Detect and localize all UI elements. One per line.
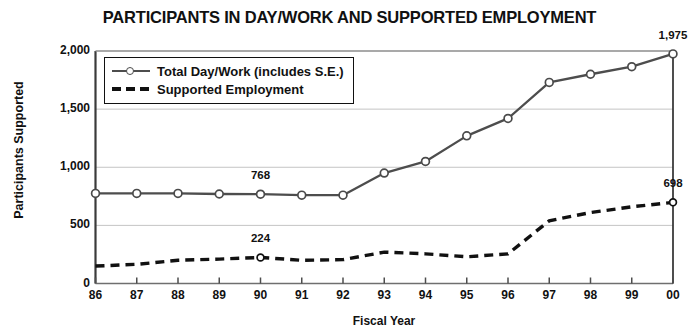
- legend-item-total-day-work: Total Day/Work (includes S.E.): [112, 62, 344, 80]
- x-axis-tick-label: 00: [666, 288, 679, 302]
- x-axis-tick-label: 88: [171, 288, 184, 302]
- x-axis-tick-label: 92: [336, 288, 349, 302]
- solid-line-marker-icon: [112, 64, 150, 78]
- chart-container: PARTICIPANTS IN DAY/WORK AND SUPPORTED E…: [0, 0, 699, 333]
- x-axis-tick-label: 89: [213, 288, 226, 302]
- x-axis-tick-label: 99: [625, 288, 638, 302]
- legend-item-label: Total Day/Work (includes S.E.): [157, 64, 344, 79]
- data-point-label: 224: [251, 232, 270, 244]
- chart-legend: Total Day/Work (includes S.E.) Supported…: [104, 57, 354, 104]
- x-axis-tick-label: 86: [89, 288, 102, 302]
- x-axis-tick-label: 91: [295, 288, 308, 302]
- x-axis-tick-label: 90: [254, 288, 267, 302]
- x-axis-tick-label: 87: [130, 288, 143, 302]
- x-axis-tick-label: 98: [584, 288, 597, 302]
- x-axis-tick-label: 97: [543, 288, 556, 302]
- dashed-line-icon: [112, 82, 150, 96]
- data-point-label: 768: [251, 169, 270, 181]
- plot-area: [0, 0, 699, 333]
- x-axis-tick-labels: 868788899091929394959697989900: [0, 288, 699, 310]
- legend-item-label: Supported Employment: [157, 82, 304, 97]
- x-axis-tick-label: 95: [460, 288, 473, 302]
- legend-item-supported-employment: Supported Employment: [112, 80, 344, 98]
- x-axis-tick-label: 94: [419, 288, 432, 302]
- data-point-label: 698: [663, 177, 682, 189]
- x-axis-tick-label: 93: [378, 288, 391, 302]
- x-axis-title: Fiscal Year: [95, 314, 673, 328]
- x-axis-tick-marks: [96, 278, 674, 284]
- gridlines: [96, 109, 674, 225]
- data-point-label: 1,975: [659, 29, 688, 41]
- x-axis-tick-label: 96: [501, 288, 514, 302]
